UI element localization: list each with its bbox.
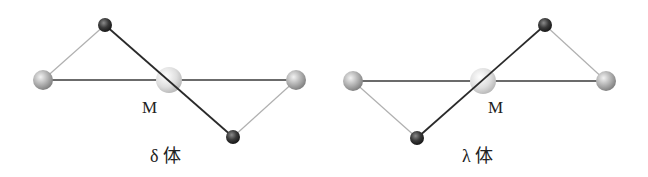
chelate-backbone-bond [105, 25, 233, 137]
bond-left-bottom [353, 81, 417, 138]
lambda-panel: M λ 体 [343, 18, 616, 166]
chelate-isomer-diagram: M δ 体 M λ 体 [0, 0, 648, 177]
isomer-label-lambda: λ 体 [462, 146, 493, 166]
metal-label: M [142, 98, 157, 117]
donor-atom-left [343, 71, 363, 91]
donor-atom-right [286, 70, 306, 90]
donor-atom-right [596, 71, 616, 91]
backbone-atom-bottom [226, 130, 240, 144]
backbone-atom-top [98, 18, 112, 32]
donor-atom-left [33, 70, 53, 90]
backbone-atom-top [538, 18, 552, 32]
isomer-label-delta: δ 体 [150, 146, 181, 166]
backbone-atom-bottom [410, 131, 424, 145]
bond-left-top [43, 25, 105, 80]
bond-right-bottom [233, 80, 296, 137]
delta-panel: M δ 体 [33, 18, 306, 166]
bond-top-right [545, 25, 606, 81]
metal-label: M [488, 98, 503, 117]
